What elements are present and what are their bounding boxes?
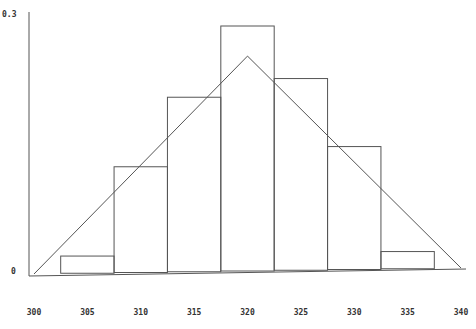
triangular-density-line	[34, 56, 461, 274]
x-tick-label: 300	[27, 308, 42, 317]
histogram-bar	[381, 252, 434, 269]
x-axis	[29, 269, 466, 276]
x-tick-labels: 300305310315320325330335340	[27, 308, 469, 317]
histogram-bar	[167, 97, 220, 272]
histogram-bar	[61, 256, 114, 273]
x-tick-label: 310	[134, 308, 149, 317]
y-tick-zero: 0	[11, 267, 16, 276]
x-tick-label: 320	[240, 308, 255, 317]
x-tick-label: 340	[454, 308, 469, 317]
histogram-bars	[61, 26, 435, 273]
y-tick-top: 0.3	[2, 10, 17, 19]
x-tick-label: 325	[294, 308, 309, 317]
x-tick-label: 335	[400, 308, 415, 317]
histogram-chart: 0.3 0 300305310315320325330335340	[0, 0, 476, 329]
histogram-bar	[274, 79, 327, 271]
histogram-bar	[328, 147, 381, 270]
x-tick-label: 330	[347, 308, 362, 317]
histogram-bar	[114, 167, 167, 273]
x-tick-label: 305	[80, 308, 95, 317]
histogram-bar	[221, 26, 274, 271]
x-tick-label: 315	[187, 308, 202, 317]
